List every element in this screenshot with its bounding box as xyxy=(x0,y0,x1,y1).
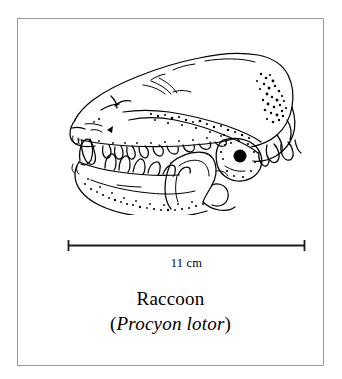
scientific-name-label: (Procyon lotor) xyxy=(17,311,324,336)
binomial-name: Procyon lotor xyxy=(117,313,225,334)
maxilla-stipple xyxy=(98,135,222,144)
mandible-surface-lines xyxy=(91,180,195,194)
figure-plate: 11 cm Raccoon (Procyon lotor) xyxy=(0,0,342,379)
scale-bar xyxy=(67,239,306,252)
orbit xyxy=(101,96,131,110)
temporal-fossa xyxy=(143,78,191,94)
figure-caption: Raccoon (Procyon lotor) xyxy=(17,286,324,336)
cranium-outline xyxy=(70,53,293,147)
common-name-label: Raccoon xyxy=(17,286,324,311)
braincase-ridges xyxy=(151,59,255,80)
raccoon-skull-illustration xyxy=(55,40,310,215)
scale-bar-label: 11 cm xyxy=(50,256,323,271)
upper-cheek-teeth xyxy=(103,140,227,159)
close-paren: ) xyxy=(224,313,231,334)
rostrum-detail xyxy=(85,118,113,133)
upper-incisors xyxy=(73,136,81,145)
occipital-stipple xyxy=(256,73,287,123)
mandible-ramus xyxy=(165,152,216,209)
mandible-condyle-angle xyxy=(203,171,235,211)
external-auditory-meatus xyxy=(234,150,247,163)
